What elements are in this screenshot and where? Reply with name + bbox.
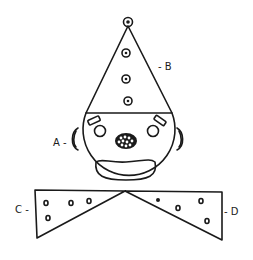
bow-tie-dots <box>44 198 209 224</box>
clown-drawing: - B A - C - - D <box>0 0 253 260</box>
label-c: C - <box>15 204 29 215</box>
mouth <box>96 160 156 180</box>
bow-tie-left-wing <box>35 190 125 238</box>
hat-button-dot <box>127 100 130 103</box>
eye-left <box>95 126 106 137</box>
hat-button-dot <box>125 52 128 55</box>
bow-tie <box>35 190 222 240</box>
bow-tie-right-wing <box>125 191 222 240</box>
nose <box>115 133 137 149</box>
label-d: - D <box>224 206 239 217</box>
ear-right-inner <box>179 131 181 147</box>
face <box>72 113 182 180</box>
eyebrow-right <box>154 115 167 126</box>
eyebrow-left <box>88 116 101 126</box>
eye-right <box>148 126 159 137</box>
ear-left-inner <box>74 131 76 147</box>
label-a: A - <box>53 137 67 148</box>
label-b: - B <box>158 61 172 72</box>
hat-buttons <box>122 49 132 105</box>
clown-diagram: - B A - C - - D <box>0 0 253 260</box>
hat-pompom-center <box>126 20 130 24</box>
hat-button-dot <box>125 78 128 81</box>
